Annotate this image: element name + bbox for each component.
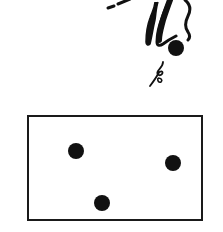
dot-2 <box>165 155 181 171</box>
rectangle-frame <box>27 115 203 221</box>
illustration-canvas <box>0 0 223 232</box>
dot-3 <box>94 195 110 211</box>
dot-1 <box>68 143 84 159</box>
falling-figure-icon <box>0 0 223 110</box>
